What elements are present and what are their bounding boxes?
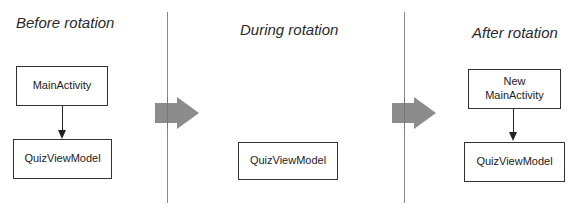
reference-arrow-head-icon [58,130,66,139]
phase-title-before: Before rotation [16,15,114,30]
box-label: QuizViewModel [24,152,100,166]
box-label: QuizViewModel [250,154,326,168]
main-activity-box: MainActivity [16,66,108,106]
box-label: QuizViewModel [476,155,552,169]
box-label: New MainActivity [485,75,544,103]
box-label: MainActivity [33,79,92,93]
phase-divider-overlay [167,97,168,129]
reference-arrow-line [62,106,63,131]
new-main-activity-box: New MainActivity [468,69,561,109]
phase-title-during: During rotation [240,22,338,37]
quiz-view-model-box: QuizViewModel [464,142,565,182]
transition-arrow-icon [392,97,438,129]
transition-arrow-icon [155,97,201,129]
reference-arrow-line [513,109,514,133]
quiz-view-model-box: QuizViewModel [238,142,338,180]
phase-divider-overlay [404,97,405,129]
phase-title-after: After rotation [472,25,558,40]
quiz-view-model-box: QuizViewModel [13,139,112,179]
reference-arrow-head-icon [509,132,517,141]
